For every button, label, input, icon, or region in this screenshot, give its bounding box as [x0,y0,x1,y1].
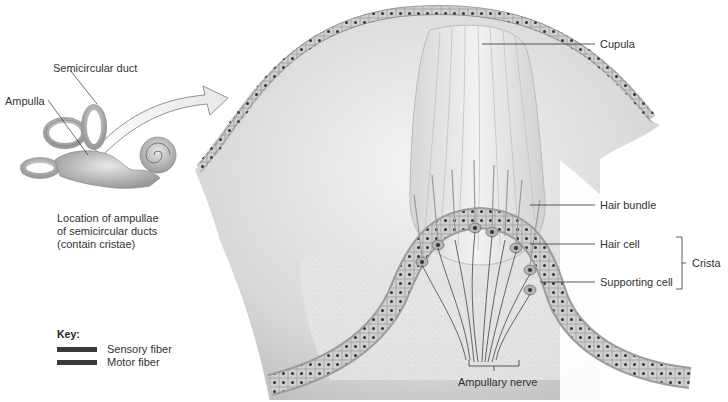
caption-line: (contain cristae) [57,238,159,251]
label-hair-bundle: Hair bundle [600,199,656,212]
label-cupula: Cupula [600,38,635,51]
sensory-fiber-swatch [57,347,97,352]
label-semicircular-duct: Semicircular duct [53,62,137,75]
inset-caption: Location of ampullae of semicircular duc… [57,212,159,251]
label-crista: Crista [692,257,721,270]
label-ampulla: Ampulla [5,95,45,108]
key-item-motor: Motor fiber [57,356,160,368]
caption-line: of semicircular ducts [57,225,159,238]
label-ampullary-nerve: Ampullary nerve [458,376,537,389]
inner-ear-illustration [23,70,176,188]
key-title: Key: [57,328,80,340]
label-supporting-cell: Supporting cell [600,276,673,289]
key-label: Motor fiber [107,356,160,368]
key-item-sensory: Sensory fiber [57,343,172,355]
label-hair-cell: Hair cell [600,238,640,251]
motor-fiber-swatch [57,360,97,365]
caption-line: Location of ampullae [57,212,159,225]
key-label: Sensory fiber [107,343,172,355]
